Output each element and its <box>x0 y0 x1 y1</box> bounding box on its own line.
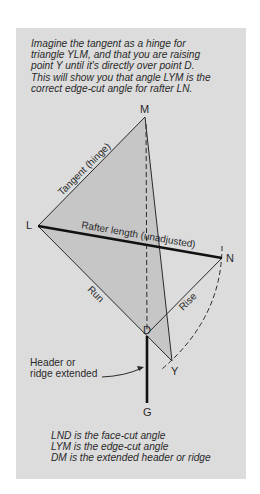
point-label-n: N <box>226 252 234 264</box>
point-label-d: D <box>143 324 151 336</box>
legend-line: LYM is the edge-cut angle <box>51 441 251 452</box>
point-label-l: L <box>26 219 32 231</box>
callout-arrow <box>102 368 142 377</box>
callout-line: Header or <box>30 357 97 368</box>
legend-line: LND is the face-cut angle <box>51 430 251 441</box>
rafter-diagram: M L N D Y G Tangent (hinge) Rafter lengt… <box>0 0 260 494</box>
point-label-y: Y <box>171 365 179 377</box>
rise-label: Rise <box>177 290 199 312</box>
point-label-g: G <box>143 406 152 418</box>
point-label-m: M <box>140 103 149 115</box>
legend-text: LND is the face-cut angle LYM is the edg… <box>51 430 251 464</box>
legend-line: DM is the extended header or ridge <box>51 452 251 463</box>
header-ridge-callout: Header or ridge extended <box>30 357 97 379</box>
callout-line: ridge extended <box>30 368 97 379</box>
